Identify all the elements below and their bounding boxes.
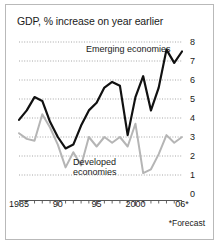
series-label-developed-line1: Developed — [73, 157, 117, 167]
y-axis-tick-labels: 012345678 — [190, 42, 210, 194]
series-label-emerging-economies: Emerging economies — [86, 44, 171, 54]
chart-figure: GDP, % increase on year earlier 01234567… — [0, 0, 219, 245]
y-tick-label-6: 6 — [190, 76, 195, 85]
x-tick-label-90: 90 — [53, 200, 63, 209]
y-tick-label-4: 4 — [190, 114, 195, 123]
y-tick-label-8: 8 — [190, 38, 195, 47]
chart-title: GDP, % increase on year earlier — [17, 15, 163, 27]
y-tick-label-0: 0 — [190, 190, 195, 199]
y-tick-label-7: 7 — [190, 57, 195, 66]
y-tick-label-2: 2 — [190, 152, 195, 161]
y-tick-label-5: 5 — [190, 95, 195, 104]
x-axis-labels: 19859095200006* — [0, 200, 209, 214]
y-tick-label-1: 1 — [190, 171, 195, 180]
y-tick-label-3: 3 — [190, 133, 195, 142]
x-tick-label-06: 06* — [175, 200, 189, 209]
x-tick-label-2000: 2000 — [125, 200, 145, 209]
series-label-developed-economies: Developed economies — [73, 157, 117, 177]
series-label-developed-line2: economies — [73, 167, 117, 177]
forecast-footnote: *Forecast — [169, 218, 205, 228]
x-tick-label-1985: 1985 — [9, 200, 29, 209]
x-tick-label-95: 95 — [92, 200, 102, 209]
